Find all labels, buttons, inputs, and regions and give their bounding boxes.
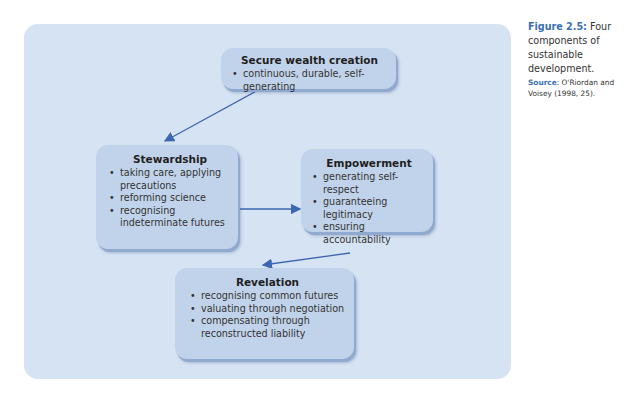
box-title: Secure wealth creation — [231, 54, 388, 66]
box-title: Revelation — [189, 276, 346, 288]
list-item: generating self-respect — [323, 171, 427, 196]
list-item: taking care, applying precautions — [120, 167, 232, 192]
list-item: reforming science — [120, 192, 232, 205]
figure-caption: Figure 2.5: Four components of sustainab… — [528, 20, 632, 99]
box-items: generating self-respect guaranteeing leg… — [311, 171, 427, 247]
box-items: recognising common futures valuating thr… — [189, 290, 346, 340]
list-item: continuous, durable, self-generating — [243, 68, 388, 93]
box-stewardship: Stewardship taking care, applying precau… — [96, 145, 238, 249]
arrow-empowerment-to-revelation — [263, 253, 350, 265]
box-revelation: Revelation recognising common futures va… — [175, 268, 354, 359]
box-title: Empowerment — [311, 157, 427, 169]
list-item: ensuring accountability — [323, 221, 427, 246]
list-item: valuating through negotiation — [201, 303, 346, 316]
list-item: compensating through reconstructed liabi… — [201, 315, 346, 340]
arrow-wealth-to-stewardship — [165, 88, 262, 141]
box-secure-wealth-creation: Secure wealth creation continuous, durab… — [221, 48, 396, 89]
list-item: recognising indeterminate futures — [120, 205, 232, 230]
list-item: recognising common futures — [201, 290, 346, 303]
box-empowerment: Empowerment generating self-respect guar… — [301, 149, 433, 232]
box-items: taking care, applying precautions reform… — [108, 167, 232, 230]
list-item: guaranteeing legitimacy — [323, 196, 427, 221]
caption-source: Source: O'Riordan and Voisey (1998, 25). — [528, 78, 632, 99]
figure-label: Figure 2.5: — [528, 21, 587, 32]
source-label: Source — [528, 78, 557, 87]
box-title: Stewardship — [108, 153, 232, 165]
caption-main: Figure 2.5: Four components of sustainab… — [528, 20, 632, 76]
box-items: continuous, durable, self-generating — [231, 68, 388, 93]
